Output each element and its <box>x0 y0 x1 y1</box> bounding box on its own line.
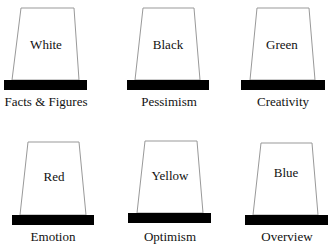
hat-meaning-label: Optimism <box>124 229 216 245</box>
hat-color-label: Black <box>132 37 204 53</box>
hat-color-label: Green <box>246 37 318 53</box>
hat-meaning-label: Pessimism <box>123 94 215 110</box>
hat-red: Red Emotion <box>0 125 110 247</box>
hat-black: Black Pessimism <box>110 0 220 120</box>
hat-color-label: Red <box>18 169 90 185</box>
hat-meaning-label: Emotion <box>7 229 99 245</box>
hat-yellow: Yellow Optimism <box>110 125 220 247</box>
hat-meaning-label: Overview <box>241 229 332 245</box>
hat-color-label: White <box>10 37 82 53</box>
hat-green: Green Creativity <box>220 0 332 120</box>
hat-color-label: Blue <box>250 165 322 181</box>
hat-color-label: Yellow <box>134 168 206 184</box>
hat-meaning-label: Facts & Figures <box>0 94 92 110</box>
hat-meaning-label: Creativity <box>237 94 329 110</box>
hat-white: White Facts & Figures <box>0 0 110 120</box>
hat-blue: Blue Overview <box>220 125 332 247</box>
